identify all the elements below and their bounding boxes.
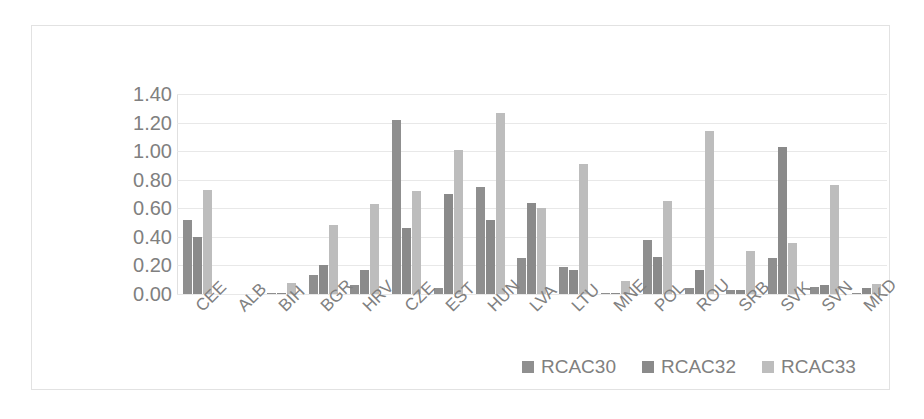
bar-group <box>302 94 344 294</box>
bar-group <box>511 94 553 294</box>
y-axis-tick-label: 1.20 <box>112 112 172 135</box>
legend-swatch-icon <box>642 361 654 373</box>
legend-label: RCAC30 <box>541 356 616 378</box>
bar-group <box>720 94 762 294</box>
bar <box>695 270 704 294</box>
bar <box>444 194 453 294</box>
bar-group <box>636 94 678 294</box>
bar <box>412 191 421 294</box>
bar-group <box>595 94 637 294</box>
bar-group <box>803 94 845 294</box>
legend-item[interactable]: RCAC32 <box>642 356 736 378</box>
bar-group <box>553 94 595 294</box>
legend-label: RCAC32 <box>661 356 736 378</box>
y-axis-tick-label: 1.40 <box>112 83 172 106</box>
y-axis-tick-label: 0.00 <box>112 283 172 306</box>
bar-group <box>177 94 219 294</box>
bar-group <box>762 94 804 294</box>
bar <box>370 204 379 294</box>
bar <box>653 257 662 294</box>
bar <box>309 275 318 294</box>
y-axis-tick-label: 0.40 <box>112 226 172 249</box>
chart-container: 1.401.201.000.800.600.400.200.00 CEEALBB… <box>31 25 890 390</box>
bar <box>527 203 536 294</box>
legend-swatch-icon <box>762 361 774 373</box>
bar <box>486 220 495 294</box>
bar <box>559 267 568 294</box>
bar <box>454 150 463 294</box>
bar <box>360 270 369 294</box>
y-axis-tick-label: 1.00 <box>112 140 172 163</box>
y-axis-tick-label: 0.80 <box>112 169 172 192</box>
bar-group <box>219 94 261 294</box>
bar-group <box>428 94 470 294</box>
bar <box>569 270 578 294</box>
bar <box>193 237 202 294</box>
bar <box>663 201 672 294</box>
bar <box>402 228 411 294</box>
bar-group <box>469 94 511 294</box>
legend-swatch-icon <box>522 361 534 373</box>
bar <box>778 147 787 294</box>
legend-item[interactable]: RCAC33 <box>762 356 856 378</box>
bar-group <box>678 94 720 294</box>
legend-label: RCAC33 <box>781 356 856 378</box>
bar-group <box>344 94 386 294</box>
plot-area <box>177 94 887 294</box>
bar-group <box>845 94 887 294</box>
legend-item[interactable]: RCAC30 <box>522 356 616 378</box>
bar <box>705 131 714 294</box>
y-axis-tick-label: 0.60 <box>112 197 172 220</box>
bar-group <box>386 94 428 294</box>
bar <box>830 185 839 294</box>
x-axis-tick-labels: CEEALBBIHBGRHRVCZEESTHUNLVALTUMNEPOLROUS… <box>177 298 887 358</box>
y-axis-tick-label: 0.20 <box>112 254 172 277</box>
bar <box>319 265 328 294</box>
y-axis-tick-labels: 1.401.201.000.800.600.400.200.00 <box>90 94 172 294</box>
bar <box>496 113 505 294</box>
bar <box>183 220 192 294</box>
chart-legend: RCAC30RCAC32RCAC33 <box>522 356 856 378</box>
bar <box>392 120 401 294</box>
bar <box>476 187 485 294</box>
bar <box>203 190 212 294</box>
bar-group <box>261 94 303 294</box>
bar <box>579 164 588 294</box>
